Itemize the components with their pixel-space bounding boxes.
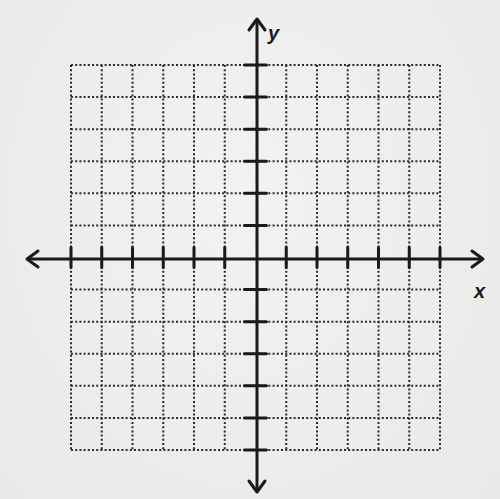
- axes: [27, 19, 483, 492]
- coordinate-plane: [0, 0, 500, 499]
- y-axis-label: y: [268, 22, 279, 45]
- x-axis-label: x: [474, 280, 485, 303]
